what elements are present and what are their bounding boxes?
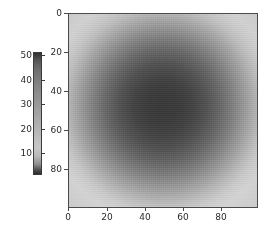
- colorbar-tick-label: 10: [8, 149, 32, 158]
- x-axis-tick-label: 60: [171, 212, 195, 222]
- y-axis-tick: [64, 52, 68, 53]
- x-axis-tick: [221, 208, 222, 211]
- y-axis-tick-label: 60: [40, 126, 62, 135]
- colorbar-tick: [42, 104, 45, 105]
- y-axis-tick: [64, 91, 68, 92]
- corner-shading-overlay: [69, 14, 257, 207]
- colorbar: 5040302010: [0, 0, 50, 237]
- colorbar-tick: [42, 153, 45, 154]
- colorbar-tick-label: 50: [8, 51, 32, 60]
- x-axis-tick-label: 20: [95, 212, 119, 222]
- matplotlib-figure: 5040302010 020406080 020406080: [0, 0, 268, 237]
- x-axis-tick-label: 0: [56, 212, 80, 222]
- y-axis-tick: [64, 13, 68, 14]
- x-axis-tick-label: 40: [133, 212, 157, 222]
- x-axis-tick: [68, 208, 69, 211]
- colorbar-tick: [42, 80, 45, 81]
- y-axis-tick: [64, 169, 68, 170]
- x-axis-tick: [183, 208, 184, 211]
- y-axis-tick-label: 20: [40, 48, 62, 57]
- y-axis-tick: [64, 130, 68, 131]
- x-axis-tick-label: 80: [209, 212, 233, 222]
- y-axis-tick-label: 0: [40, 9, 62, 18]
- colorbar-tick-label: 40: [8, 76, 32, 85]
- x-axis-tick: [107, 208, 108, 211]
- image-axes: [68, 13, 258, 208]
- colorbar-gradient: [33, 52, 42, 175]
- y-axis-tick-label: 80: [40, 165, 62, 174]
- colorbar-tick-label: 20: [8, 125, 32, 134]
- y-axis-tick-label: 40: [40, 87, 62, 96]
- colorbar-tick-label: 30: [8, 100, 32, 109]
- x-axis-tick: [145, 208, 146, 211]
